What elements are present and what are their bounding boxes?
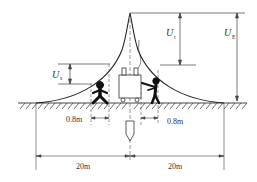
touch-voltage-subscript: t bbox=[174, 34, 176, 40]
touch-voltage-dimension bbox=[160, 13, 196, 65]
touch-voltage-label: U bbox=[166, 27, 174, 38]
radius-right-label: 20m bbox=[168, 162, 183, 171]
earth-potential-subscript: E bbox=[232, 34, 236, 40]
potential-distribution-diagram: U E U t U s bbox=[0, 0, 257, 182]
step-distance-dimension bbox=[91, 117, 109, 119]
walking-person-icon bbox=[93, 82, 107, 104]
step-voltage-subscript: s bbox=[60, 75, 63, 81]
radius-left-label: 20m bbox=[76, 162, 91, 171]
ground-hatch bbox=[20, 103, 247, 109]
earth-potential-dimension bbox=[236, 13, 239, 101]
step-voltage-dimension bbox=[58, 64, 110, 84]
touching-person-icon bbox=[142, 78, 159, 103]
ground bbox=[18, 103, 247, 109]
touch-distance-label: 0.8m bbox=[167, 117, 184, 126]
step-voltage-label: U bbox=[52, 69, 60, 80]
earth-potential-label: U bbox=[224, 27, 232, 38]
step-distance-label: 0.8m bbox=[66, 115, 83, 124]
ground-electrode-icon bbox=[126, 121, 134, 141]
touch-distance-dimension bbox=[141, 117, 158, 119]
